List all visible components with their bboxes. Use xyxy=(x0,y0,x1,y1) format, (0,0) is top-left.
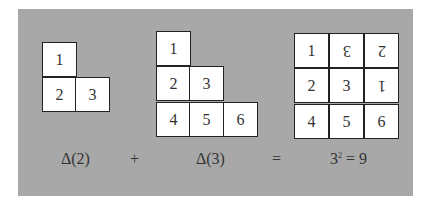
grid-cell: 1 xyxy=(42,42,77,77)
grid-cell: 5 xyxy=(329,104,364,139)
cell-number-flipped: 1 xyxy=(378,77,386,95)
grid-cell: 3 xyxy=(329,33,364,68)
grid-cell: 2 xyxy=(364,33,399,68)
equals-sign: = xyxy=(272,150,281,168)
grid-cell: 3 xyxy=(329,68,364,103)
cell-number-flipped: 2 xyxy=(378,42,386,60)
cell-number-flipped: 3 xyxy=(343,42,351,60)
result-base: 3 xyxy=(330,150,338,167)
grid-cell: 3 xyxy=(75,77,110,112)
term-delta3: Δ(3) xyxy=(196,150,225,168)
grid-cell: 1 xyxy=(156,31,191,66)
grid-cell: 6 xyxy=(223,102,258,137)
result: 32 = 9 xyxy=(330,150,367,168)
grid-cell: 4 xyxy=(156,102,191,137)
grid-cell: 2 xyxy=(156,66,191,101)
cell-number: 1 xyxy=(308,42,316,60)
grid-cell: 1 xyxy=(294,33,329,68)
term-delta2: Δ(2) xyxy=(61,150,90,168)
grid-cell: 2 xyxy=(42,77,77,112)
plus-sign: + xyxy=(130,150,139,168)
result-value: = 9 xyxy=(342,150,367,167)
cell-number: 2 xyxy=(308,77,316,95)
grid-cell: 1 xyxy=(364,68,399,103)
cell-number: 6 xyxy=(378,113,386,131)
grid-cell: 2 xyxy=(294,68,329,103)
cell-number: 5 xyxy=(343,113,351,131)
grid-cell: 6 xyxy=(364,104,399,139)
grid-cell: 5 xyxy=(189,102,224,137)
grid-cell: 3 xyxy=(189,66,224,101)
cell-number: 3 xyxy=(343,77,351,95)
cell-number: 4 xyxy=(308,113,316,131)
grid-cell: 4 xyxy=(294,104,329,139)
